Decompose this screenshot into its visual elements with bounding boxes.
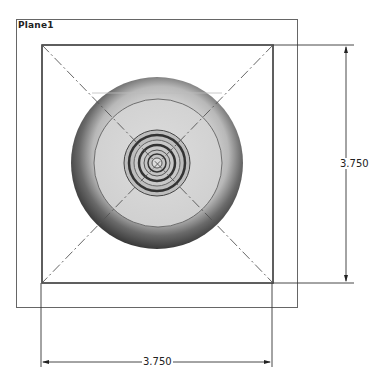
vertical-dimension-value[interactable]: 3.750 — [339, 158, 370, 169]
horizontal-dimension-value[interactable]: 3.750 — [142, 356, 173, 367]
sketch-canvas[interactable] — [0, 0, 376, 389]
horizontal-dimension[interactable] — [41, 283, 272, 367]
plane-label: Plane1 — [18, 20, 54, 30]
